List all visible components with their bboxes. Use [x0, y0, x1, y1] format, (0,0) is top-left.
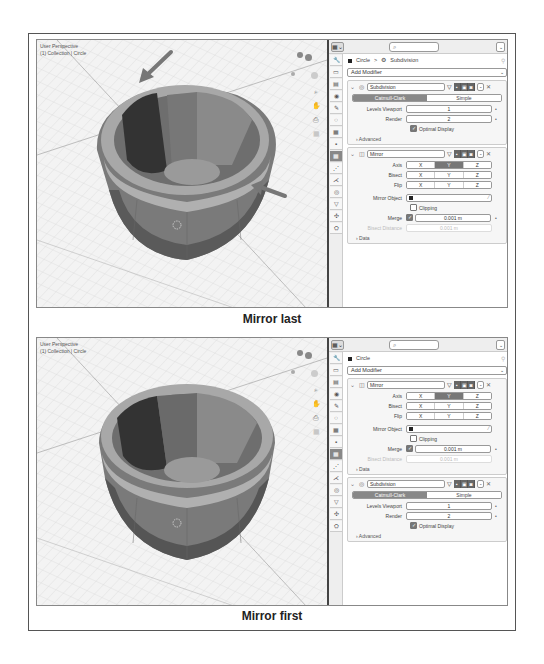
- advanced-subpanel[interactable]: › Advanced: [348, 134, 506, 144]
- zoom-icon[interactable]: ⌕: [311, 386, 321, 394]
- edit-mode-filter-icon[interactable]: ▽: [447, 382, 452, 388]
- render-toggle-icon[interactable]: ◙: [468, 381, 475, 389]
- optimal-display-checkbox[interactable]: ✓: [410, 125, 417, 132]
- 3d-viewport[interactable]: User Perspective (1) Collection | Circle…: [37, 40, 327, 308]
- modifier-name-field[interactable]: Subdivision: [367, 83, 445, 91]
- pan-hand-icon[interactable]: ✋: [311, 102, 321, 110]
- tab-collection-icon[interactable]: ▦: [330, 425, 342, 436]
- tab-object-icon[interactable]: ▪: [330, 437, 342, 448]
- axis-y-icon[interactable]: [305, 352, 312, 359]
- add-modifier-dropdown[interactable]: Add Modifier ⌄: [347, 366, 507, 375]
- collapse-icon[interactable]: ⌄: [350, 481, 356, 487]
- editor-type-button[interactable]: ▦⌄: [331, 340, 344, 350]
- merge-checkbox[interactable]: ✓: [406, 445, 413, 452]
- keyframe-dot-icon[interactable]: •: [492, 503, 500, 509]
- bisect-y-toggle[interactable]: Y: [435, 172, 463, 178]
- axis-z-toggle[interactable]: Z: [464, 393, 491, 399]
- tab-output-icon[interactable]: ▤: [330, 377, 342, 388]
- tab-modifiers-icon[interactable]: ▦: [330, 151, 342, 162]
- tab-object-icon[interactable]: ▪: [330, 139, 342, 150]
- bisect-x-toggle[interactable]: X: [407, 403, 435, 409]
- tab-texture-icon[interactable]: ⛭: [330, 521, 342, 532]
- pin-icon[interactable]: ⚲: [501, 355, 505, 362]
- axis-neg-icon[interactable]: [311, 72, 318, 79]
- tab-data-icon[interactable]: ▽: [330, 199, 342, 210]
- editor-type-button[interactable]: ▦⌄: [331, 42, 344, 52]
- advanced-subpanel[interactable]: › Advanced: [348, 531, 506, 541]
- modifier-menu-dropdown[interactable]: ⌄: [477, 150, 484, 158]
- camera-icon[interactable]: ⎙: [311, 116, 321, 124]
- viewport-toggle-icon[interactable]: ▣: [461, 381, 468, 389]
- modifier-name-field[interactable]: Subdivision: [367, 480, 445, 488]
- tab-tool-icon[interactable]: 🔧: [330, 55, 342, 66]
- editmode-toggle-icon[interactable]: ▪: [454, 150, 461, 158]
- keyframe-dot-icon[interactable]: •: [492, 215, 500, 221]
- tab-physics-icon[interactable]: ⋌: [330, 175, 342, 186]
- bisect-z-toggle[interactable]: Z: [464, 172, 491, 178]
- clipping-checkbox[interactable]: [410, 435, 417, 442]
- tab-particles-icon[interactable]: ⋰: [330, 461, 342, 472]
- keyframe-dot-icon[interactable]: •: [492, 513, 500, 519]
- render-levels-field[interactable]: 2: [406, 512, 492, 520]
- flip-z-toggle[interactable]: Z: [464, 182, 491, 188]
- tab-modifiers-icon[interactable]: ▦: [330, 449, 342, 460]
- optimal-display-checkbox[interactable]: ✓: [410, 522, 417, 529]
- tab-texture-icon[interactable]: ⛭: [330, 223, 342, 234]
- axis-x-toggle[interactable]: X: [407, 393, 435, 399]
- modifier-menu-dropdown[interactable]: ⌄: [477, 480, 484, 488]
- tab-scene-icon[interactable]: ✎: [330, 401, 342, 412]
- remove-modifier-icon[interactable]: ✕: [486, 381, 491, 388]
- axis-z-toggle[interactable]: Z: [464, 162, 491, 168]
- properties-search[interactable]: ⌕: [389, 42, 439, 52]
- tab-material-icon[interactable]: ✣: [330, 211, 342, 222]
- mirror-object-field[interactable]: ⁄: [406, 425, 492, 433]
- axis-y-icon[interactable]: [305, 54, 312, 61]
- catmull-clark-option[interactable]: Catmull-Clark: [353, 492, 427, 498]
- tab-view-layer-icon[interactable]: ◉: [330, 91, 342, 102]
- flip-x-toggle[interactable]: X: [407, 182, 435, 188]
- remove-modifier-icon[interactable]: ✕: [486, 480, 491, 487]
- viewport-toggle-icon[interactable]: ▣: [461, 480, 468, 488]
- tab-world-icon[interactable]: ◌: [330, 413, 342, 424]
- remove-modifier-icon[interactable]: ✕: [486, 83, 491, 90]
- modifier-menu-dropdown[interactable]: ⌄: [477, 381, 484, 389]
- levels-viewport-field[interactable]: 1: [406, 502, 492, 510]
- render-toggle-icon[interactable]: ◙: [468, 480, 475, 488]
- navigation-gizmo[interactable]: ⌕ ✋ ⎙ ▦: [297, 342, 323, 462]
- axis-x-icon[interactable]: [297, 52, 303, 58]
- tab-material-icon[interactable]: ✣: [330, 509, 342, 520]
- collapse-icon[interactable]: ⌄: [350, 382, 356, 388]
- data-subpanel[interactable]: › Data: [348, 464, 506, 474]
- modifier-name-field[interactable]: Mirror: [367, 150, 445, 158]
- tab-view-layer-icon[interactable]: ◉: [330, 389, 342, 400]
- editmode-toggle-icon[interactable]: ▪: [454, 83, 461, 91]
- properties-search[interactable]: ⌕: [389, 340, 439, 350]
- navigation-gizmo[interactable]: ⌕ ✋ ⎙ ▦: [297, 44, 323, 164]
- keyframe-dot-icon[interactable]: •: [492, 106, 500, 112]
- pin-icon[interactable]: ⚲: [501, 57, 505, 64]
- add-modifier-dropdown[interactable]: Add Modifier ⌄: [347, 68, 507, 77]
- edit-mode-filter-icon[interactable]: ▽: [447, 151, 452, 157]
- collapse-icon[interactable]: ⌄: [350, 151, 356, 157]
- axis-z-icon[interactable]: [291, 370, 295, 374]
- bisect-y-toggle[interactable]: Y: [435, 403, 463, 409]
- viewport-toggle-icon[interactable]: ▣: [461, 150, 468, 158]
- tab-scene-icon[interactable]: ✎: [330, 103, 342, 114]
- tab-collection-icon[interactable]: ▦: [330, 127, 342, 138]
- catmull-clark-option[interactable]: Catmull-Clark: [353, 95, 427, 101]
- edit-mode-filter-icon[interactable]: ▽: [447, 84, 452, 90]
- keyframe-dot-icon[interactable]: •: [492, 116, 500, 122]
- merge-checkbox[interactable]: ✓: [406, 214, 413, 221]
- 3d-viewport[interactable]: User Perspective (1) Collection | Circle…: [37, 338, 327, 606]
- collapse-icon[interactable]: ⌄: [350, 84, 356, 90]
- edit-mode-filter-icon[interactable]: ▽: [447, 481, 452, 487]
- flip-y-toggle[interactable]: Y: [435, 182, 463, 188]
- render-toggle-icon[interactable]: ◙: [468, 150, 475, 158]
- axis-x-toggle[interactable]: X: [407, 162, 435, 168]
- modifier-name-field[interactable]: Mirror: [367, 381, 445, 389]
- camera-icon[interactable]: ⎙: [311, 414, 321, 422]
- eyedropper-icon[interactable]: ⁄: [488, 425, 489, 431]
- tab-output-icon[interactable]: ▤: [330, 79, 342, 90]
- merge-distance-field[interactable]: 0.001 m: [415, 445, 491, 453]
- data-subpanel[interactable]: › Data: [348, 233, 506, 243]
